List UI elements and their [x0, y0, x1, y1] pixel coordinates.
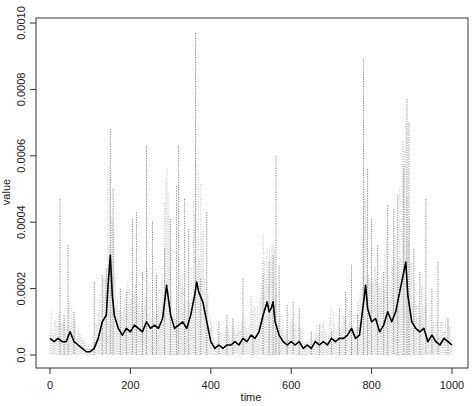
- y-tick-label: 0.0002: [15, 272, 27, 306]
- y-tick-label: 0.0004: [15, 205, 27, 239]
- x-tick-label: 200: [121, 379, 139, 391]
- time-series-chart: 02004006008001000 0.00.00020.00040.00060…: [0, 0, 475, 406]
- y-tick-label: 0.0006: [15, 139, 27, 173]
- y-tick-label: 0.0008: [15, 73, 27, 107]
- x-tick-label: 800: [362, 379, 380, 391]
- x-tick-label: 0: [47, 379, 53, 391]
- y-tick-label: 0.0: [15, 347, 27, 362]
- y-axis-title: value: [0, 179, 12, 205]
- y-tick-label: 0.0010: [15, 6, 27, 40]
- x-tick-label: 400: [202, 379, 220, 391]
- x-axis-title: time: [241, 391, 262, 403]
- plot-background: [0, 0, 475, 406]
- x-tick-label: 1000: [440, 379, 464, 391]
- x-tick-label: 600: [282, 379, 300, 391]
